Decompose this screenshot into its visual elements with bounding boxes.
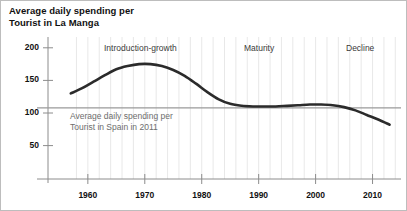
y-tick-label: 200 xyxy=(13,42,39,52)
annotation-maturity: Maturity xyxy=(244,43,274,53)
annotation-decline: Decline xyxy=(346,43,374,53)
x-tick-label: 2000 xyxy=(299,190,333,200)
y-tick-label: 50 xyxy=(13,140,39,150)
x-tick-label: 1980 xyxy=(185,190,219,200)
y-tick-label: 150 xyxy=(13,74,39,84)
x-tick-label: 1970 xyxy=(128,190,162,200)
x-tick-label: 2010 xyxy=(356,190,390,200)
reference-line-label: Average daily spending per Tourist in Sp… xyxy=(70,111,173,133)
x-tick-label: 1960 xyxy=(71,190,105,200)
annotation-introduction-growth: Introduction-growth xyxy=(104,43,177,53)
axis-lines xyxy=(37,37,401,183)
chart-figure: Average daily spending per Tourist in La… xyxy=(0,0,407,211)
y-tick-label: 100 xyxy=(13,107,39,117)
plot-area xyxy=(1,1,407,211)
x-tick-label: 1990 xyxy=(242,190,276,200)
